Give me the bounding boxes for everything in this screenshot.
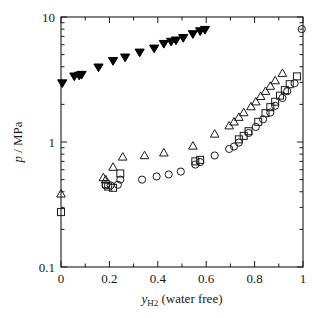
y-tick-label: 0.1	[39, 260, 55, 275]
data-point-triangle-up	[235, 113, 244, 121]
data-point-circle	[245, 129, 252, 136]
x-axis-rest: (water free)	[158, 291, 222, 306]
data-point-triangle-down	[159, 40, 168, 48]
x-tick-label: 0	[58, 271, 65, 286]
x-axis-title: yH2 (water free)	[139, 291, 222, 308]
data-point-circle	[165, 171, 172, 178]
data-point-triangle-up	[256, 92, 265, 100]
data-point-triangle-down	[94, 64, 103, 72]
data-point-triangle-up	[278, 69, 287, 77]
data-point-triangle-down	[188, 31, 197, 39]
plot-frame	[61, 17, 303, 267]
scatter-plot: 00.20.40.60.810.1110p / MPayH2 (water fr…	[0, 0, 317, 318]
data-point-triangle-up	[109, 163, 118, 171]
axes-frame	[61, 17, 303, 267]
data-point-triangle-up	[271, 76, 280, 84]
x-tick-label: 1	[300, 271, 307, 286]
data-point-triangle-up	[266, 82, 275, 90]
x-axis-ticks: 00.20.40.60.81	[58, 17, 307, 286]
x-tick-label: 0.6	[198, 271, 215, 286]
x-tick-label: 0.2	[101, 271, 117, 286]
y-tick-label: 1	[49, 135, 56, 150]
data-point-circle	[153, 173, 160, 180]
y-axis-unit: / MPa	[10, 121, 25, 156]
svg-text:p / MPa: p / MPa	[10, 121, 25, 163]
data-point-triangle-down	[108, 58, 117, 66]
data-point-triangle-up	[210, 130, 219, 138]
data-point-triangle-up	[160, 148, 169, 156]
x-axis-subscript: H2	[147, 298, 158, 308]
data-point-triangle-down	[135, 49, 144, 57]
figure-container: 00.20.40.60.810.1110p / MPayH2 (water fr…	[0, 0, 317, 318]
data-point-square	[245, 128, 252, 135]
series-filled-down-triangle	[58, 26, 210, 87]
data-point-triangle-up	[252, 97, 261, 105]
data-point-triangle-up	[261, 87, 270, 95]
data-point-triangle-up	[189, 142, 198, 150]
series-open-circle	[102, 26, 305, 189]
data-point-circle	[279, 94, 286, 101]
data-point-triangle-up	[140, 151, 149, 159]
data-point-triangle-down	[58, 80, 67, 88]
x-tick-label: 0.4	[150, 271, 167, 286]
data-point-square	[293, 73, 300, 80]
data-point-circle	[177, 168, 184, 175]
data-point-circle	[138, 176, 145, 183]
data-point-circle	[252, 123, 259, 130]
y-axis-ticks: 0.1110	[39, 10, 303, 275]
y-axis-title: p / MPa	[10, 121, 25, 163]
data-point-triangle-down	[150, 45, 159, 53]
svg-text:yH2 (water free): yH2 (water free)	[139, 291, 222, 308]
x-tick-label: 0.8	[246, 271, 262, 286]
data-point-triangle-down	[121, 54, 130, 62]
data-point-triangle-up	[247, 102, 256, 110]
data-point-circle	[211, 152, 218, 159]
y-tick-label: 10	[42, 10, 55, 25]
data-point-triangle-up	[118, 153, 127, 161]
